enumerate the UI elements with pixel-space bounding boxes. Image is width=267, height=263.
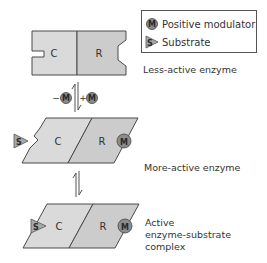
region-label-c: C (55, 136, 62, 147)
svg-text:S: S (33, 223, 39, 232)
svg-text:−: − (52, 93, 60, 103)
region-label-r: R (99, 136, 106, 147)
bound-modulator-icon: M (118, 219, 132, 233)
svg-text:+: + (79, 93, 87, 103)
caption-less-active: Less-active enzyme (143, 64, 237, 75)
svg-text:Active: Active (145, 217, 175, 228)
add-modulator-label: + M (79, 93, 97, 104)
svg-text:complex: complex (145, 241, 186, 252)
modulator-legend-icon: M (147, 19, 158, 30)
legend: M Positive modulator S Substrate (142, 11, 257, 53)
svg-text:S: S (16, 138, 22, 147)
region-label-r: R (100, 221, 107, 232)
caption-more-active: More-active enzyme (144, 162, 241, 173)
caption-complex: Active enzyme-substrate complex (145, 217, 231, 252)
region-label-c: C (56, 221, 63, 232)
free-substrate-icon: S (14, 134, 28, 148)
svg-text:M: M (148, 20, 156, 29)
legend-label-modulator: Positive modulator (162, 19, 256, 30)
region-label-r: R (96, 48, 103, 59)
less-active-enzyme: C R (32, 31, 126, 75)
svg-text:S: S (147, 39, 153, 48)
bound-modulator-icon: M (117, 134, 131, 148)
svg-text:M: M (62, 94, 70, 103)
svg-text:M: M (88, 94, 96, 103)
allosteric-enzyme-diagram: M Positive modulator S Substrate C R Les… (0, 0, 267, 263)
svg-text:M: M (121, 223, 129, 232)
equilibrium-arrows-2 (73, 171, 82, 197)
legend-label-substrate: Substrate (162, 37, 210, 48)
remove-modulator-label: − M (52, 93, 71, 104)
enzyme-substrate-complex: C R M S (23, 204, 139, 248)
svg-text:enzyme-substrate: enzyme-substrate (145, 229, 231, 240)
region-label-c: C (51, 48, 58, 59)
svg-text:M: M (120, 138, 128, 147)
more-active-enzyme: C R M S (14, 118, 138, 163)
